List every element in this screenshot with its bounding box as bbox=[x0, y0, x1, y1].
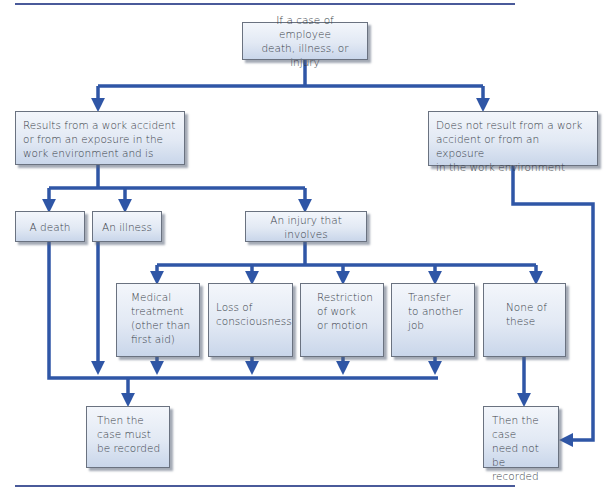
none-of-these-node: None of these bbox=[483, 283, 566, 357]
medical-treatment-node: Medical treatment (other than first aid) bbox=[116, 283, 200, 357]
must-be-recorded-node: Then the case must be recorded bbox=[86, 406, 170, 468]
transfer-node: Transfer to another job bbox=[391, 283, 475, 357]
not-work-related-node: Does not result from a work accident or … bbox=[428, 111, 598, 166]
work-related-node: Results from a work accident or from an … bbox=[15, 111, 185, 165]
loss-of-consciousness-node: Loss of consciousness bbox=[208, 283, 293, 357]
illness-node: An illness bbox=[92, 211, 162, 242]
start-node: If a case of employee death, illness, or… bbox=[242, 22, 368, 60]
restriction-node: Restriction of work or motion bbox=[300, 283, 384, 357]
death-node: A death bbox=[15, 211, 85, 242]
need-not-be-recorded-node: Then the case need not be recorded bbox=[483, 406, 559, 468]
injury-node: An injury that involves bbox=[245, 211, 367, 242]
